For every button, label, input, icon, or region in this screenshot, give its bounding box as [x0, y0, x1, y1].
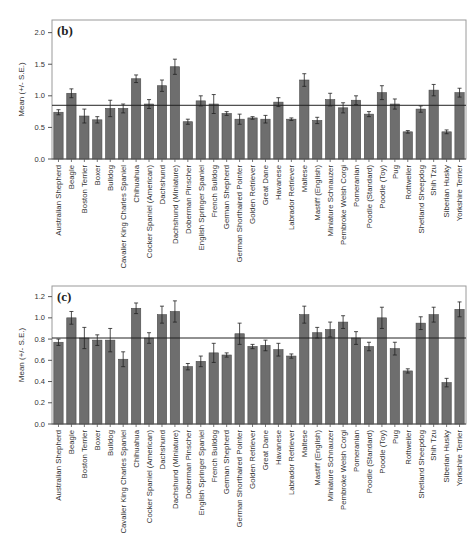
- bar: [235, 334, 244, 424]
- category-label: Boston Terrier: [80, 430, 89, 479]
- category-label: Yorkshire Terrier: [455, 430, 464, 487]
- category-label: Shetland Sheepdog: [417, 430, 426, 499]
- category-label: Maltese: [300, 430, 309, 457]
- bar: [183, 122, 192, 159]
- category-label: Shih Tzu: [429, 430, 438, 461]
- category-label: Dachshund: [158, 430, 167, 469]
- category-label: Rottweiler: [404, 165, 413, 200]
- category-label: Shetland Sheepdog: [417, 165, 426, 234]
- bar: [416, 109, 425, 159]
- category-label: Dachshund (Miniature): [171, 165, 180, 244]
- bar: [338, 108, 347, 159]
- bar: [274, 102, 283, 159]
- bar-chart-c: (c)0.00.20.40.60.81.01.2Mean (+/- S.E.)A…: [0, 270, 471, 545]
- bar: [377, 318, 386, 424]
- category-label: Bulldog: [106, 430, 115, 456]
- bar: [157, 86, 166, 159]
- category-label: Australian Shepherd: [54, 165, 63, 236]
- category-label: Golden Retriever: [248, 430, 257, 489]
- bar: [300, 315, 309, 424]
- bar: [403, 371, 412, 424]
- category-label: Cavalier King Charles Spaniel: [119, 165, 128, 269]
- bar: [455, 309, 464, 424]
- bar: [351, 100, 360, 159]
- y-tick-label: 0.4: [35, 377, 45, 386]
- category-label: Dachshund: [158, 165, 167, 204]
- bar: [248, 347, 257, 424]
- y-tick-label: 2.0: [35, 28, 45, 37]
- category-label: Cavalier King Charles Spaniel: [119, 430, 128, 534]
- bar: [390, 349, 399, 424]
- category-label: Havanese: [274, 430, 283, 465]
- bar: [377, 93, 386, 159]
- category-label: Pug: [391, 430, 400, 444]
- category-label: Yorkshire Terrier: [455, 165, 464, 222]
- category-label: Golden Retriever: [248, 165, 257, 224]
- category-label: Cocker Spaniel (American): [145, 165, 154, 259]
- y-tick-label: 1.5: [35, 60, 45, 69]
- category-label: Great Dane: [261, 430, 270, 470]
- category-label: Poodle (Standard): [365, 430, 374, 494]
- bar: [364, 114, 373, 159]
- category-label: Siberian Husky: [442, 430, 451, 483]
- category-label: Chihuahua: [132, 164, 141, 202]
- category-label: Siberian Husky: [442, 165, 451, 218]
- category-label: German Shorthaired Pointer: [235, 165, 244, 263]
- category-label: German Shepherd: [222, 430, 231, 494]
- bar: [170, 67, 179, 159]
- y-tick-label: 1.0: [35, 91, 45, 100]
- bar: [403, 132, 412, 159]
- category-label: English Springer Spaniel: [197, 165, 206, 251]
- bar: [222, 355, 231, 424]
- y-axis-label: Mean (+/- S.E.): [17, 327, 26, 382]
- category-label: Doberman Pinscher: [184, 430, 193, 499]
- bar: [54, 112, 63, 159]
- category-label: Pomeranian: [352, 430, 361, 472]
- bar: [442, 132, 451, 159]
- category-label: Pembroke Welsh Corgi: [339, 165, 348, 245]
- bar: [131, 79, 140, 159]
- category-label: Boston Terrier: [80, 165, 89, 214]
- bar: [429, 90, 438, 159]
- bar: [364, 347, 373, 424]
- category-label: Boxer: [93, 165, 102, 186]
- y-axis-label: Mean (+/- S.E.): [17, 62, 26, 117]
- bar: [144, 104, 153, 159]
- bar: [118, 108, 127, 159]
- bar: [93, 120, 102, 159]
- bar: [209, 353, 218, 424]
- category-label: German Shepherd: [222, 165, 231, 229]
- category-label: Poodle (Toy): [378, 165, 387, 209]
- category-label: Mastiff (English): [313, 165, 322, 221]
- category-label: Rottweiler: [404, 430, 413, 465]
- chart-panel-c: (c)0.00.20.40.60.81.01.2Mean (+/- S.E.)A…: [0, 270, 471, 545]
- bar: [54, 342, 63, 424]
- bar: [196, 361, 205, 424]
- bar: [170, 311, 179, 424]
- category-label: Shih Tzu: [429, 165, 438, 196]
- category-label: Labrador Retriever: [287, 165, 296, 230]
- category-label: Mastiff (English): [313, 430, 322, 486]
- category-label: Chihuahua: [132, 429, 141, 467]
- category-label: German Shorthaired Pointer: [235, 430, 244, 528]
- chart-panel-b: (b)0.00.51.01.52.0Mean (+/- S.E.)Austral…: [0, 0, 471, 270]
- bar: [261, 345, 270, 424]
- category-label: Doberman Pinscher: [184, 165, 193, 234]
- bar: [287, 119, 296, 159]
- bar: [442, 383, 451, 424]
- bar: [313, 120, 322, 159]
- bar: [67, 318, 76, 424]
- category-label: Poodle (Toy): [378, 430, 387, 474]
- category-label: Australian Shepherd: [54, 430, 63, 501]
- y-tick-label: 0.0: [35, 155, 45, 164]
- category-label: Bulldog: [106, 165, 115, 191]
- bar: [106, 340, 115, 424]
- bar: [118, 359, 127, 424]
- category-label: Pembroke Welsh Corgi: [339, 430, 348, 510]
- bar: [287, 356, 296, 424]
- y-tick-label: 0.0: [35, 420, 45, 429]
- bar: [183, 367, 192, 424]
- bar: [261, 119, 270, 159]
- category-label: Maltese: [300, 165, 309, 192]
- bar: [67, 93, 76, 159]
